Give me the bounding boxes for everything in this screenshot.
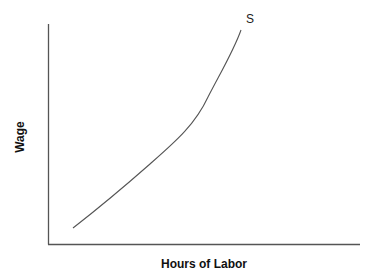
supply-curve [73, 30, 241, 228]
y-axis-label: Wage [13, 121, 27, 153]
x-axis-label: Hours of Labor [161, 257, 247, 271]
curve-label-s: S [246, 12, 254, 26]
supply-chart: S Hours of Labor Wage [0, 0, 370, 278]
